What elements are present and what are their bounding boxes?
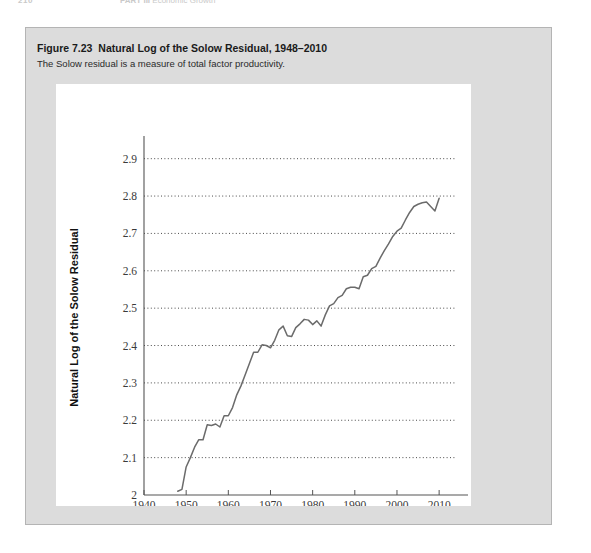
- figure-caption: Figure 7.23 Natural Log of the Solow Res…: [37, 41, 537, 71]
- x-tick-label: 1980: [301, 499, 324, 506]
- running-head-page-number: 210: [18, 0, 33, 6]
- x-tick-label: 1940: [133, 499, 156, 506]
- x-tick-label: 1950: [175, 499, 198, 506]
- y-tick-label: 2.4: [123, 340, 138, 352]
- chart-y-tick-labels: 22.12.22.32.42.52.62.72.82.9: [123, 153, 138, 501]
- chart-x-ticks: [144, 490, 439, 495]
- y-tick-label: 2.1: [123, 452, 138, 464]
- chart-data-line: [178, 198, 439, 491]
- x-tick-label: 1970: [259, 499, 282, 506]
- figure-container: Figure 7.23 Natural Log of the Solow Res…: [25, 27, 552, 525]
- solow-residual-line-chart: 22.12.22.32.42.52.62.72.82.9 19401950196…: [56, 84, 471, 506]
- y-tick-label: 2.3: [123, 377, 138, 389]
- figure-number: Figure 7.23: [37, 42, 92, 54]
- x-tick-label: 1990: [343, 499, 366, 506]
- x-tick-label: 2010: [428, 499, 451, 506]
- y-tick-label: 2.2: [123, 414, 138, 426]
- y-tick-label: 2.9: [123, 153, 138, 165]
- x-tick-label: 2000: [385, 499, 408, 506]
- figure-caption-heading: Figure 7.23 Natural Log of the Solow Res…: [37, 41, 537, 55]
- y-tick-label: 2.5: [123, 302, 138, 314]
- figure-title: Natural Log of the Solow Residual, 1948–…: [98, 42, 327, 54]
- figure-subtitle: The Solow residual is a measure of total…: [37, 57, 537, 71]
- running-head-part-label: PART III: [120, 0, 150, 5]
- chart-gridlines: [144, 159, 456, 458]
- y-tick-label: 2.6: [123, 265, 138, 277]
- running-head: 210 PART III Economic Growth: [0, 0, 591, 14]
- y-tick-label: 2.7: [123, 227, 138, 239]
- chart-plot-panel: 22.12.22.32.42.52.62.72.82.9 19401950196…: [56, 84, 471, 506]
- running-head-part: PART III Economic Growth: [120, 0, 215, 6]
- chart-y-axis-title: Natural Log of the Solow Residual: [68, 228, 80, 406]
- chart-x-tick-labels: 19401950196019701980199020002010: [133, 499, 451, 506]
- y-tick-label: 2.8: [123, 190, 138, 202]
- x-tick-label: 1960: [217, 499, 240, 506]
- running-head-part-title: Economic Growth: [152, 0, 215, 5]
